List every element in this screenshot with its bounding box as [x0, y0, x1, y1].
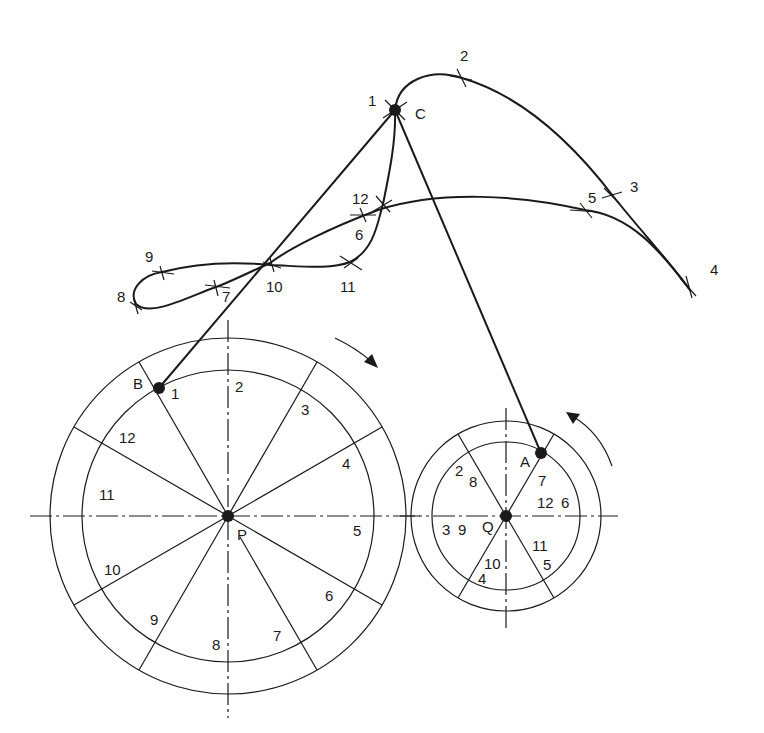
pivot-q	[500, 510, 512, 522]
svg-text:10: 10	[484, 555, 501, 572]
small-gear: Q 7 12 6 11 5 10 4 3 9 2 8	[400, 408, 618, 632]
svg-text:11: 11	[532, 537, 548, 554]
svg-text:10: 10	[104, 561, 121, 578]
arrowhead-icon	[364, 354, 378, 368]
svg-text:3: 3	[301, 401, 309, 418]
joint-b	[153, 382, 165, 394]
svg-text:12: 12	[119, 429, 136, 446]
label-q: Q	[482, 518, 494, 535]
svg-text:5: 5	[353, 522, 361, 539]
svg-text:8: 8	[469, 473, 477, 490]
svg-text:8: 8	[212, 636, 220, 653]
svg-text:2: 2	[455, 462, 463, 479]
large-gear: P 1 2 3 4 5 6 7 8 9 10 11 12	[30, 320, 420, 718]
svg-text:7: 7	[273, 627, 281, 644]
engineering-diagram: P 1 2 3 4 5 6 7 8 9 10 11 12 Q	[0, 0, 764, 733]
svg-text:9: 9	[145, 248, 153, 265]
svg-text:6: 6	[561, 494, 569, 511]
arrowhead-icon	[566, 412, 580, 424]
svg-text:4: 4	[342, 455, 350, 472]
svg-text:1: 1	[368, 92, 376, 109]
svg-text:9: 9	[458, 521, 466, 538]
svg-text:3: 3	[630, 178, 638, 195]
label-a: A	[520, 453, 530, 470]
svg-text:2: 2	[460, 47, 468, 64]
svg-text:12: 12	[352, 190, 369, 207]
svg-text:9: 9	[150, 611, 158, 628]
link-ca	[395, 110, 541, 453]
locus-labels: 1 2 3 4 5 6 7 8 9 10 11 12	[117, 47, 718, 305]
large-gear-rotation-arrow	[335, 338, 372, 362]
svg-text:6: 6	[325, 587, 333, 604]
svg-text:6: 6	[355, 226, 363, 243]
svg-text:2: 2	[235, 378, 243, 395]
label-c: C	[415, 105, 426, 122]
label-b: B	[133, 375, 143, 392]
svg-text:7: 7	[538, 472, 546, 489]
svg-text:12: 12	[537, 494, 554, 511]
svg-text:4: 4	[478, 570, 486, 587]
svg-text:11: 11	[99, 486, 115, 503]
svg-text:1: 1	[171, 385, 179, 402]
pivot-p	[222, 510, 234, 522]
svg-text:11: 11	[340, 278, 356, 295]
svg-text:3: 3	[442, 521, 450, 538]
small-gear-rotation-arrow	[572, 416, 612, 466]
svg-text:4: 4	[710, 261, 718, 278]
svg-text:7: 7	[222, 288, 230, 305]
svg-text:5: 5	[588, 189, 596, 206]
label-p: P	[237, 526, 247, 543]
link-bc	[159, 110, 395, 388]
svg-text:10: 10	[266, 278, 283, 295]
locus-tick-marks	[130, 69, 696, 314]
svg-text:5: 5	[543, 556, 551, 573]
locus-curve: 1 2 3 4 5 6 7 8 9 10 11 12	[117, 47, 718, 314]
joint-a	[535, 447, 547, 459]
svg-text:8: 8	[117, 288, 125, 305]
